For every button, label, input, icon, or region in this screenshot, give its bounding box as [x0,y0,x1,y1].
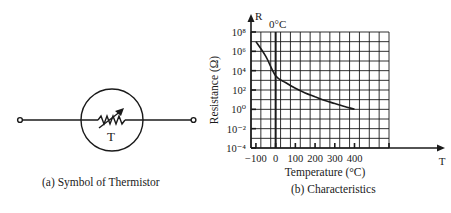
chart-axes [248,14,446,152]
left-terminal-icon [18,118,23,123]
x-axis-arrow-icon [437,145,445,152]
x-tick-label: 200 [307,153,323,164]
symbol-caption: (a) Symbol of Thermistor [42,176,160,188]
zero-celsius-annotation: 0°C [269,18,286,30]
chart-labels: 10⁻⁴10⁻²10⁰10²10⁴10⁶10⁸−1000100200300400… [208,10,446,179]
y-tick-label: 10⁻⁴ [226,143,246,154]
y-axis-letter: R [255,10,263,22]
y-tick-label: 10⁴ [232,66,247,77]
chart-caption: (b) Characteristics [291,183,376,195]
thermistor-label: T [107,129,115,144]
resistor-zigzag-icon [98,116,125,124]
x-tick-label: 100 [287,153,303,164]
y-axis-title: Resistance (Ω) [208,56,221,124]
x-axis-title: Temperature (°C) [285,166,366,179]
x-tick-label: 0 [273,153,278,164]
y-tick-label: 10² [232,85,246,96]
y-tick-label: 10⁰ [231,104,246,115]
y-tick-label: 10⁶ [232,46,247,57]
y-tick-label: 10⁻² [227,124,246,135]
x-tick-label: −100 [245,153,267,164]
y-tick-label: 10⁸ [232,27,247,38]
x-tick-label: 300 [327,153,343,164]
x-tick-label: 400 [347,153,363,164]
y-axis-arrow-icon [248,14,255,22]
chart-grid [251,32,389,148]
x-axis-letter: T [439,155,446,167]
right-terminal-icon [191,118,196,123]
